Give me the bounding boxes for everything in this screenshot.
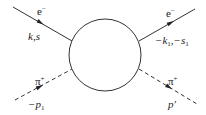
label-p1-main: −p [28,98,41,110]
label-pion-out-charge: + [174,75,178,83]
label-momentum-p-prime: p′ [168,99,176,110]
label-s1-main: ,−s [171,34,185,46]
label-momentum-k1-s1: −k1,−s1 [155,35,189,50]
label-momentum-k-s: k,s [28,31,40,42]
label-pion-out: π+ [168,74,178,87]
label-pion-in: π+ [35,74,45,87]
label-electron-in-charge: − [42,5,46,13]
incoming-electron-arrow-icon [37,19,44,25]
label-k-s-text: k,s [28,30,40,42]
label-k1-main: −k [155,34,167,46]
label-electron-in: e− [37,4,46,17]
label-p1-sub: 1 [41,104,45,112]
label-pion-in-charge: + [41,75,45,83]
label-p-prime-text: p′ [168,98,176,110]
label-electron-out-charge: − [171,7,175,15]
label-s1-sub: 1 [185,40,189,48]
interaction-blob [69,19,141,91]
label-electron-out: e− [166,6,175,19]
outgoing-electron-arrow-icon [167,21,174,26]
label-momentum-p1: −p1 [28,99,44,114]
